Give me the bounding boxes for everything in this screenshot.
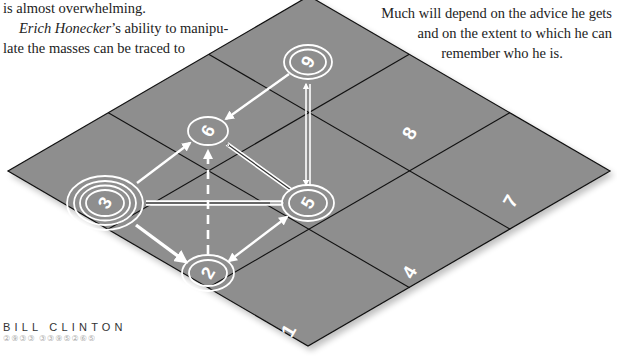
left-line-1: is almost overwhelming. xyxy=(3,0,233,18)
right-line-3: remember who he is. xyxy=(332,43,612,63)
right-line-1: Much will depend on the advice he gets xyxy=(332,3,612,23)
caption: BILL CLINTON ②⑨③③ ③③⑨⑤②⑥⑤ xyxy=(3,321,127,343)
right-paragraph: Much will depend on the advice he gets a… xyxy=(332,3,612,63)
caption-digit-code: ②⑨③③ ③③⑨⑤②⑥⑤ xyxy=(3,334,127,343)
right-line-2: and on the extent to which he can xyxy=(332,23,612,43)
name-honecker: Erich Honecker xyxy=(19,20,111,36)
left-line-2: Erich Honecker’s ability to manipu- xyxy=(3,18,233,38)
left-paragraph: is almost overwhelming. Erich Honecker’s… xyxy=(3,0,233,58)
node-5: 5 xyxy=(282,185,334,221)
caption-name: BILL CLINTON xyxy=(3,321,127,333)
left-line-3: late the masses can be traced to xyxy=(3,38,233,58)
node-2: 2 xyxy=(182,255,234,291)
